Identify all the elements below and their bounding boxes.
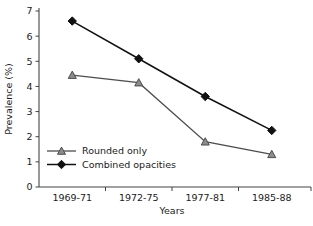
series-line: [72, 21, 272, 130]
y-tick-label: 6: [26, 31, 32, 42]
x-category-label: 1969-71: [52, 192, 92, 203]
diamond-marker: [268, 126, 276, 134]
x-tick-group: 1969-711972-751977-811985-88: [52, 187, 311, 203]
y-axis-title: Prevalence (%): [3, 63, 14, 135]
y-tick-label: 0: [26, 181, 32, 192]
x-axis-title: Years: [158, 205, 184, 216]
legend: Rounded onlyCombined opacities: [47, 145, 176, 170]
y-tick-label: 3: [26, 106, 32, 117]
series-diamond: [68, 17, 276, 135]
chart-canvas: 012345671969-711972-751977-811985-88Year…: [0, 0, 313, 226]
x-category-label: 1985-88: [252, 192, 292, 203]
y-tick-label: 5: [26, 56, 32, 67]
diamond-marker: [135, 55, 143, 63]
legend-label: Combined opacities: [82, 159, 176, 170]
diamond-marker: [68, 17, 76, 25]
y-tick-label: 1: [26, 156, 32, 167]
y-tick-group: 01234567: [26, 5, 39, 192]
diamond-marker: [57, 160, 65, 168]
legend-label: Rounded only: [82, 145, 147, 156]
y-tick-label: 7: [26, 5, 32, 16]
x-category-label: 1977-81: [185, 192, 225, 203]
y-tick-label: 4: [26, 81, 32, 92]
x-category-label: 1972-75: [119, 192, 159, 203]
y-tick-label: 2: [26, 131, 32, 142]
prevalence-line-chart: 012345671969-711972-751977-811985-88Year…: [0, 0, 313, 226]
triangle-marker: [68, 71, 76, 78]
diamond-marker: [201, 92, 209, 100]
